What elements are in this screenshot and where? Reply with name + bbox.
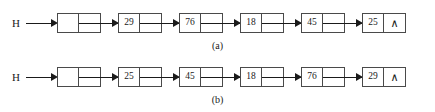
node-data-cell: 45 [302,14,323,32]
null-pointer-icon: ∧ [384,14,405,32]
head-arrow-a [26,22,58,24]
link-arrow-a-4 [323,22,362,24]
node-data-cell [58,14,79,32]
node-data-cell: 76 [180,14,201,32]
node-data-cell: 45 [180,68,201,86]
node-data-cell: 25 [119,68,140,86]
link-arrow-a-2 [201,22,240,24]
linked-list-row-a: H 29 76 18 45 2 [0,3,435,43]
null-pointer-icon: ∧ [384,68,405,86]
caption-b: (b) [0,94,435,105]
node-data-cell: 29 [119,14,140,32]
head-arrow-b [26,76,58,78]
link-arrow-a-3 [262,22,301,24]
arrow-shaft [26,77,52,78]
node-data-cell: 18 [241,14,262,32]
head-pointer-label-a: H [12,13,20,33]
link-arrow-b-1 [140,76,179,78]
link-arrow-b-2 [201,76,240,78]
node-data-cell: 25 [363,14,384,32]
list-node-a-5: 25 ∧ [362,13,406,33]
link-arrow-a-0 [79,22,118,24]
node-data-cell: 29 [363,68,384,86]
link-arrow-b-3 [262,76,301,78]
link-arrow-b-0 [79,76,118,78]
head-pointer-label-b: H [12,67,20,87]
list-node-b-5: 29 ∧ [362,67,406,87]
link-arrow-b-4 [323,76,362,78]
node-data-cell: 76 [302,68,323,86]
caption-a: (a) [0,40,435,51]
link-arrow-a-1 [140,22,179,24]
linked-list-row-b: H 25 45 18 76 2 [0,57,435,97]
arrow-shaft [26,23,52,24]
node-data-cell [58,68,79,86]
node-data-cell: 18 [241,68,262,86]
